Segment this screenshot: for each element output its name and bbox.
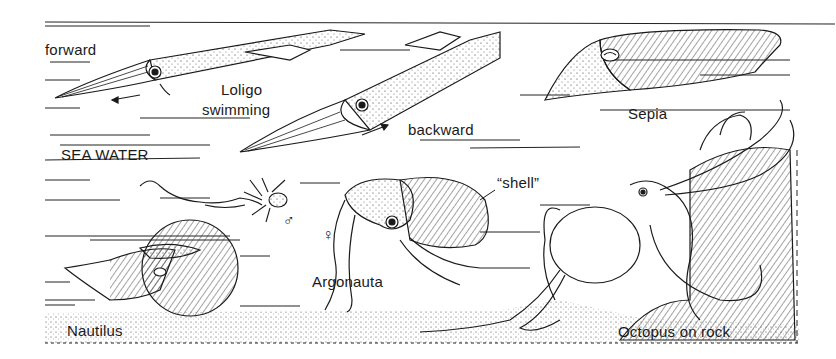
- label-argonauta: Argonauta: [312, 274, 383, 289]
- label-swimming: swimming: [202, 102, 270, 117]
- male-symbol-icon: ♂: [283, 213, 295, 229]
- loligo-forward-drawing: [55, 30, 365, 103]
- label-shell: “shell”: [497, 175, 539, 190]
- label-forward: forward: [45, 42, 96, 57]
- label-backward: backward: [408, 122, 474, 137]
- label-sepia: Sepia: [628, 106, 667, 121]
- female-symbol-icon: ♀: [322, 227, 334, 243]
- label-loligo: Loligo: [221, 82, 262, 97]
- sepia-drawing: [545, 30, 781, 100]
- cephalopod-illustration: [0, 0, 836, 359]
- argonauta-female-drawing: [325, 178, 495, 313]
- argonauta-male-drawing: [140, 178, 287, 222]
- label-sea-water: SEA WATER: [61, 147, 149, 162]
- nautilus-drawing: [65, 220, 238, 316]
- label-nautilus: Nautilus: [67, 323, 123, 338]
- label-octopus: Octopus on rock: [618, 324, 730, 339]
